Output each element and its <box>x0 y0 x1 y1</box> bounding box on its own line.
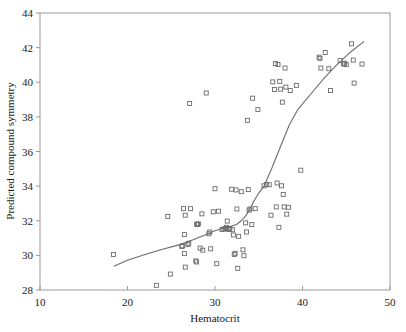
y-tick-label: 38 <box>22 111 34 123</box>
y-tick-label: 28 <box>22 284 34 296</box>
figure-background <box>0 0 406 332</box>
scatter-plot-figure: 1020304050 283032343638404244 Hematocrit… <box>0 0 406 332</box>
x-tick-label: 30 <box>210 296 222 308</box>
y-tick-label: 36 <box>22 146 34 158</box>
x-tick-label: 40 <box>297 296 309 308</box>
y-axis-tick-labels: 283032343638404244 <box>22 7 34 296</box>
chart-canvas: 1020304050 283032343638404244 Hematocrit… <box>0 0 406 332</box>
x-axis-title: Hematocrit <box>190 312 239 324</box>
y-axis-title: Predicted compound symmetry <box>4 82 16 220</box>
x-tick-label: 10 <box>35 296 47 308</box>
y-tick-label: 34 <box>22 180 34 192</box>
y-tick-label: 40 <box>22 76 34 88</box>
x-tick-label: 50 <box>385 296 397 308</box>
y-tick-label: 42 <box>22 42 33 54</box>
y-tick-label: 32 <box>22 215 33 227</box>
x-tick-label: 20 <box>122 296 134 308</box>
y-tick-label: 44 <box>22 7 34 19</box>
y-tick-label: 30 <box>22 249 34 261</box>
